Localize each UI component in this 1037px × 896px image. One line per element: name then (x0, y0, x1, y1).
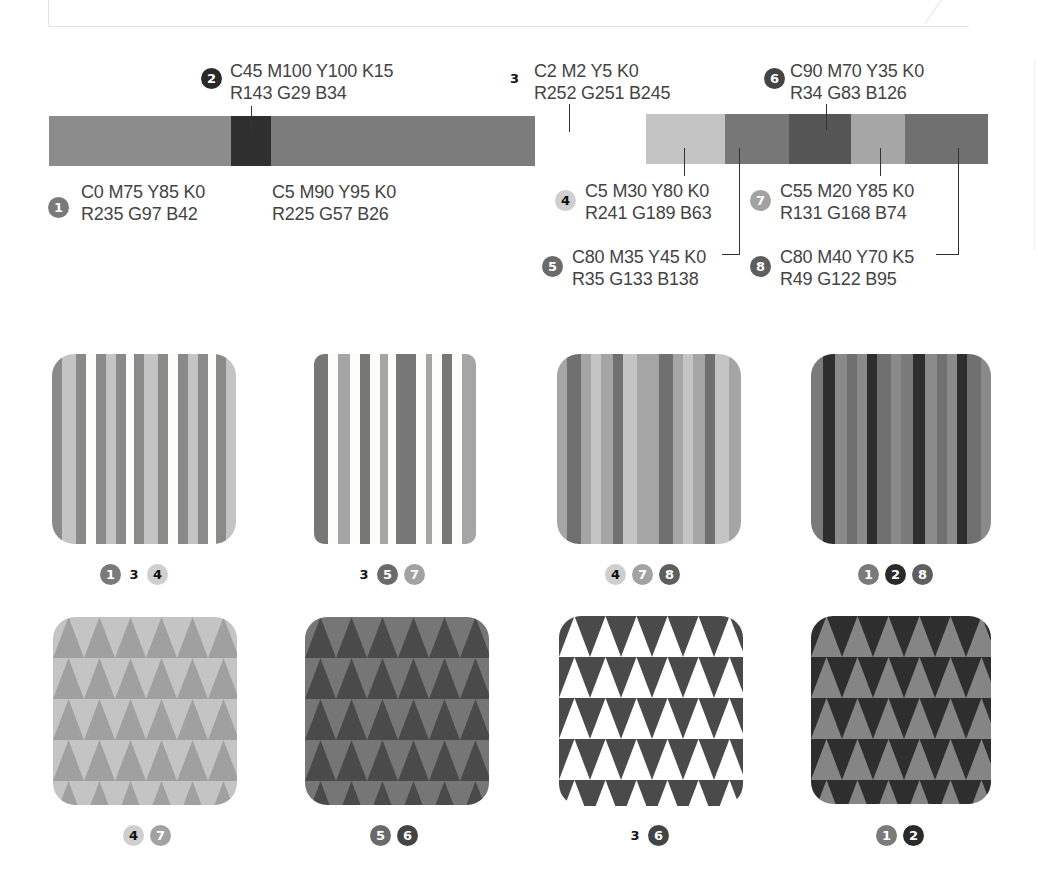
swatch-legend-7: 3 6 (628, 825, 669, 846)
cmyk-value: C2 M2 Y5 K0 (534, 60, 670, 82)
swatch-legend-5: 4 7 (123, 825, 171, 846)
swatch-tile-stripes-1-3-4 (52, 354, 236, 544)
rgb-value: R235 G97 B42 (81, 203, 205, 225)
legend-chip-1: 1 (100, 564, 121, 585)
page-edge (1034, 60, 1035, 250)
legend-chip-2: 2 (885, 564, 906, 585)
swatch-legend-8: 1 2 (876, 825, 924, 846)
swatch-color-6 (789, 114, 851, 164)
leader-line-5 (739, 148, 740, 254)
color-label-3: C2 M2 Y5 K0 R252 G251 B245 (534, 60, 670, 104)
rgb-value: R131 G168 B74 (780, 202, 914, 224)
color-number-badge-6: 6 (764, 68, 785, 89)
legend-chip-7: 7 (150, 825, 171, 846)
rgb-value: R241 G189 B63 (585, 202, 712, 224)
legend-chip-4: 4 (123, 825, 144, 846)
swatch-legend-6: 5 6 (370, 825, 418, 846)
legend-chip-2: 2 (903, 825, 924, 846)
color-number-3: 3 (504, 68, 525, 89)
color-number-badge-4: 4 (555, 190, 576, 211)
swatch-color-5 (725, 114, 789, 164)
color-number-badge-7: 7 (750, 190, 771, 211)
legend-chip-6: 6 (397, 825, 418, 846)
rgb-value: R252 G251 B245 (534, 82, 670, 104)
legend-chip-4: 4 (147, 564, 168, 585)
swatch-legend-4: 1 2 8 (858, 564, 933, 585)
swatch-tile-triangles-5-6 (305, 617, 489, 805)
rgb-value: R49 G122 B95 (780, 268, 914, 290)
cmyk-value: C80 M35 Y45 K0 (572, 246, 706, 268)
legend-chip-8: 8 (912, 564, 933, 585)
color-number-badge-8: 8 (750, 256, 771, 277)
cmyk-value: C80 M40 Y70 K5 (780, 246, 914, 268)
swatch-color-x (271, 116, 535, 166)
swatch-color-4 (646, 114, 725, 164)
swatch-tile-stripes-3-5-7 (314, 354, 476, 544)
cmyk-value: C5 M30 Y80 K0 (585, 180, 712, 202)
leader-line-6 (826, 104, 827, 130)
triangle-pattern (559, 616, 743, 806)
cmyk-value: C0 M75 Y85 K0 (81, 181, 205, 203)
leader-line-7 (880, 148, 881, 176)
legend-chip-3: 3 (357, 564, 371, 585)
swatch-color-1 (49, 116, 231, 166)
swatch-legend-1: 1 3 4 (100, 564, 168, 585)
color-label-6: C90 M70 Y35 K0 R34 G83 B126 (790, 60, 924, 104)
swatch-tile-triangles-4-7 (53, 617, 237, 805)
cmyk-value: C45 M100 Y100 K15 (230, 60, 393, 82)
swatch-legend-3: 4 7 8 (605, 564, 680, 585)
legend-chip-3: 3 (628, 825, 642, 846)
legend-chip-6: 6 (648, 825, 669, 846)
triangle-pattern (53, 617, 237, 805)
legend-chip-4: 4 (605, 564, 626, 585)
palette-bar-right (646, 114, 988, 164)
cmyk-value: C55 M20 Y85 K0 (780, 180, 914, 202)
rgb-value: R225 G57 B26 (272, 203, 396, 225)
color-label-7: C55 M20 Y85 K0 R131 G168 B74 (780, 180, 914, 224)
swatch-color-7 (851, 114, 905, 164)
legend-chip-7: 7 (404, 564, 425, 585)
legend-chip-1: 1 (858, 564, 879, 585)
swatch-tile-stripes-4-7-8 (557, 354, 741, 544)
legend-chip-7: 7 (632, 564, 653, 585)
color-label-1: C0 M75 Y85 K0 R235 G97 B42 (81, 181, 205, 225)
color-number-badge-1: 1 (48, 197, 69, 218)
rgb-value: R34 G83 B126 (790, 82, 924, 104)
color-label-5: C80 M35 Y45 K0 R35 G133 B138 (572, 246, 706, 290)
page-frame (48, 0, 969, 27)
leader-line-5-tick (722, 254, 740, 255)
color-label-8: C80 M40 Y70 K5 R49 G122 B95 (780, 246, 914, 290)
cmyk-value: C90 M70 Y35 K0 (790, 60, 924, 82)
rgb-value: R35 G133 B138 (572, 268, 706, 290)
swatch-color-8 (905, 114, 988, 164)
legend-chip-5: 5 (370, 825, 391, 846)
leader-line-4 (684, 148, 685, 176)
palette-bar-left (49, 116, 535, 166)
legend-chip-1: 1 (876, 825, 897, 846)
swatch-tile-stripes-1-2-8 (811, 354, 991, 544)
rgb-value: R143 G29 B34 (230, 82, 393, 104)
leader-line-8-tick (936, 254, 959, 255)
color-number-badge-2: 2 (201, 68, 222, 89)
color-label-4: C5 M30 Y80 K0 R241 G189 B63 (585, 180, 712, 224)
leader-line-8 (958, 148, 959, 254)
swatch-tile-triangles-3-6 (559, 616, 743, 806)
triangle-pattern (811, 616, 991, 804)
leader-line-3 (569, 104, 570, 132)
legend-chip-8: 8 (659, 564, 680, 585)
color-label-2: C45 M100 Y100 K15 R143 G29 B34 (230, 60, 393, 104)
swatch-tile-triangles-1-2 (811, 616, 991, 804)
color-number-badge-5: 5 (542, 256, 563, 277)
triangle-pattern (305, 617, 489, 805)
cmyk-value: C5 M90 Y95 K0 (272, 181, 396, 203)
legend-chip-3: 3 (127, 564, 141, 585)
legend-chip-5: 5 (377, 564, 398, 585)
leader-line-2 (251, 106, 252, 134)
swatch-legend-2: 3 5 7 (357, 564, 425, 585)
color-label-x: C5 M90 Y95 K0 R225 G57 B26 (272, 181, 396, 225)
